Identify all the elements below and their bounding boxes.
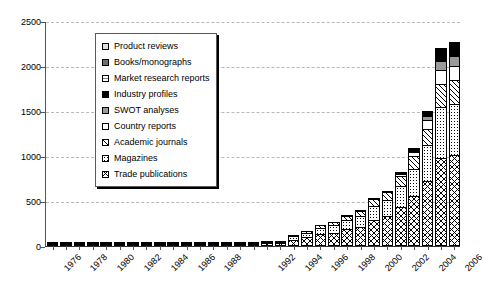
bar-segment	[422, 129, 434, 146]
x-axis-tick-mark	[374, 246, 375, 250]
x-axis-tick-mark	[213, 246, 214, 250]
legend-swatch-icon	[102, 43, 109, 50]
x-axis-tick-mark	[307, 246, 308, 250]
bar-segment	[382, 216, 394, 246]
bar-2006	[449, 42, 461, 246]
bar-1995	[301, 231, 313, 246]
bar-segment	[449, 66, 461, 81]
legend-item-label: SWOT analyses	[114, 106, 179, 115]
bar-segment	[395, 207, 407, 246]
x-axis-tick-mark	[441, 246, 442, 250]
bar-segment	[328, 225, 340, 232]
x-axis-tick-mark	[280, 246, 281, 250]
x-axis-tick-label: 2000	[383, 252, 404, 273]
x-axis-tick-label: 1992	[276, 252, 297, 273]
bar-2002	[395, 172, 407, 246]
gridline	[46, 22, 460, 23]
bar-segment	[449, 104, 461, 155]
bar-segment	[368, 206, 380, 220]
legend-item[interactable]: Product reviews	[102, 38, 212, 54]
legend-swatch-icon	[102, 171, 109, 178]
y-axis-tick-mark	[40, 22, 45, 23]
x-axis-tick-mark	[79, 246, 80, 250]
y-axis-tick-label: 1000	[1, 153, 41, 162]
x-axis-tick-mark	[227, 246, 228, 250]
x-axis-tick-mark	[146, 246, 147, 250]
legend-item[interactable]: Trade publications	[102, 166, 212, 182]
x-axis-tick-mark	[414, 246, 415, 250]
bar-1997	[328, 222, 340, 246]
bar-2000	[368, 198, 380, 246]
bar-segment	[408, 196, 420, 246]
y-axis-tick-label: 0	[1, 243, 41, 252]
bar-segment	[449, 56, 461, 66]
x-axis-tick-mark	[294, 246, 295, 250]
bar-segment	[355, 227, 367, 246]
y-axis-tick-mark	[40, 202, 45, 203]
x-axis-tick-label: 2002	[410, 252, 431, 273]
bar-segment	[422, 120, 434, 128]
legend-item[interactable]: SWOT analyses	[102, 102, 212, 118]
bar-1994	[288, 235, 300, 247]
bar-segment	[341, 220, 353, 229]
x-axis-tick-label: 1976	[62, 252, 83, 273]
x-axis-tick-mark	[66, 246, 67, 250]
x-axis-tick-mark	[387, 246, 388, 250]
x-axis-tick-label: 1994	[303, 252, 324, 273]
y-axis-tick-label: 500	[1, 198, 41, 207]
x-axis-tick-label: 1984	[169, 252, 190, 273]
legend-item[interactable]: Country reports	[102, 118, 212, 134]
x-axis-tick-mark	[454, 246, 455, 250]
bar-2003	[408, 148, 420, 246]
bar-segment	[395, 186, 407, 208]
y-axis-tick-mark	[40, 67, 45, 68]
bar-segment	[435, 61, 447, 70]
bar-segment	[328, 233, 340, 247]
x-axis-tick-label: 1978	[88, 252, 109, 273]
bar-segment	[422, 145, 434, 181]
bar-segment	[408, 156, 420, 169]
x-axis-tick-mark	[267, 246, 268, 250]
legend-item-label: Market research reports	[114, 74, 210, 83]
y-axis-tick-mark	[40, 247, 45, 248]
bar-1996	[315, 225, 327, 246]
legend-swatch-icon	[102, 59, 109, 66]
bar-segment	[449, 80, 461, 103]
bar-1999	[355, 210, 367, 246]
chart-legend: Product reviewsBooks/monographsMarket re…	[95, 33, 217, 187]
x-axis-tick-mark	[106, 246, 107, 250]
legend-swatch-icon	[102, 123, 109, 130]
x-axis-tick-mark	[160, 246, 161, 250]
x-axis-tick-mark	[187, 246, 188, 250]
x-axis-tick-mark	[347, 246, 348, 250]
x-axis-tick-label: 2004	[436, 252, 457, 273]
x-axis-tick-label: 1988	[222, 252, 243, 273]
y-axis-tick-label: 2500	[1, 18, 41, 27]
y-axis-tick-mark	[40, 157, 45, 158]
y-axis-tick-label: 2000	[1, 63, 41, 72]
bar-segment	[368, 220, 380, 246]
x-axis-tick-mark	[361, 246, 362, 250]
legend-item[interactable]: Industry profiles	[102, 86, 212, 102]
legend-item-label: Industry profiles	[114, 90, 178, 99]
x-axis-tick-label: 1982	[142, 252, 163, 273]
bar-segment	[315, 234, 327, 246]
bar-2001	[382, 191, 394, 246]
x-axis-tick-mark	[320, 246, 321, 250]
legend-swatch-icon	[102, 91, 109, 98]
legend-item[interactable]: Academic journals	[102, 134, 212, 150]
legend-item[interactable]: Magazines	[102, 150, 212, 166]
x-axis-tick-label: 1996	[329, 252, 350, 273]
legend-item-label: Trade publications	[114, 170, 187, 179]
legend-item[interactable]: Books/monographs	[102, 54, 212, 70]
bar-segment	[408, 169, 420, 196]
legend-item[interactable]: Market research reports	[102, 70, 212, 86]
x-axis-tick-mark	[240, 246, 241, 250]
legend-item-label: Product reviews	[114, 42, 178, 51]
bar-segment	[355, 216, 367, 226]
legend-item-label: Magazines	[114, 154, 158, 163]
bar-segment	[301, 237, 313, 246]
legend-item-label: Academic journals	[114, 138, 188, 147]
x-axis-tick-label: 2006	[463, 252, 484, 273]
